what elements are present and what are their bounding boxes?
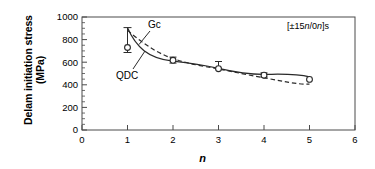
y-tick-label: 400	[62, 79, 78, 90]
data-marker	[216, 66, 222, 72]
anno-mid: /0	[309, 21, 317, 31]
x-tick-label: 2	[170, 134, 175, 145]
y-tick-label: 800	[62, 34, 78, 45]
x-axis-title: n	[0, 152, 375, 164]
data-error-bars	[124, 28, 268, 78]
x-tick-label: 3	[216, 134, 221, 145]
x-tick-label: 4	[261, 134, 266, 145]
data-marker	[261, 72, 267, 78]
anno-post: ]s	[322, 21, 330, 31]
layup-annotation-text: [±15n/0n]s	[287, 21, 330, 31]
series-label-qdc-text: QDC	[116, 70, 138, 81]
series-label-gc-text: Gc	[148, 19, 161, 30]
x-tick-label: 0	[79, 134, 84, 145]
x-axis-title-text: n	[169, 152, 206, 164]
x-tick-labels: 0 1 2 3 4 5 6	[79, 134, 357, 145]
layup-annotation: [±15n/0n]s	[287, 21, 330, 31]
y-tick-label: 600	[62, 57, 78, 68]
y-tick-label: 200	[62, 102, 78, 113]
x-tick-label: 1	[125, 134, 130, 145]
series-label-qdc: QDC	[116, 51, 145, 81]
x-tick-label: 6	[352, 134, 357, 145]
chart-figure: 0 200 400 600 800 1000 0 1 2 3 4 5 6	[0, 0, 375, 169]
series-label-gc: Gc	[139, 19, 161, 45]
y-tick-label: 1000	[57, 11, 78, 22]
data-marker	[307, 77, 313, 83]
y-tick-label: 0	[73, 124, 78, 135]
data-marker	[125, 45, 131, 51]
x-axis-major-ticks	[82, 125, 355, 130]
data-marker	[170, 57, 176, 63]
x-tick-label: 5	[307, 134, 312, 145]
anno-pre: [±15	[287, 21, 304, 31]
y-tick-labels: 0 200 400 600 800 1000	[57, 11, 78, 135]
